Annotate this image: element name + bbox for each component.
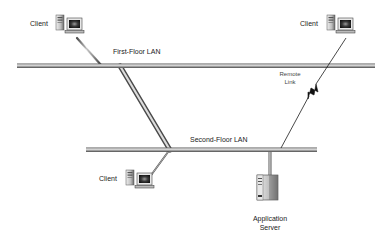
client-top-left-icon [56,15,84,33]
remote-link [281,38,346,148]
client-bottom-label: Client [99,175,117,183]
application-server-label-line2: Server [260,224,281,232]
remote-link-label-line1: Remote [279,71,300,78]
server-cable [269,152,272,176]
first-floor-lan-label: First-Floor LAN [113,48,160,56]
remote-link-label-line2: Link [284,79,295,86]
client-bottom-icon [126,170,154,188]
application-server-icon [257,175,278,200]
first-floor-lan-bar [17,64,375,69]
second-floor-lan-bar [86,148,317,153]
client-top-left-label: Client [30,20,48,28]
network-diagram [0,0,375,240]
application-server-label-line1: Application [253,215,287,223]
client-top-right-label: Client [300,20,318,28]
client-top-right-icon [327,15,355,33]
second-floor-lan-label: Second-Floor LAN [190,136,248,144]
